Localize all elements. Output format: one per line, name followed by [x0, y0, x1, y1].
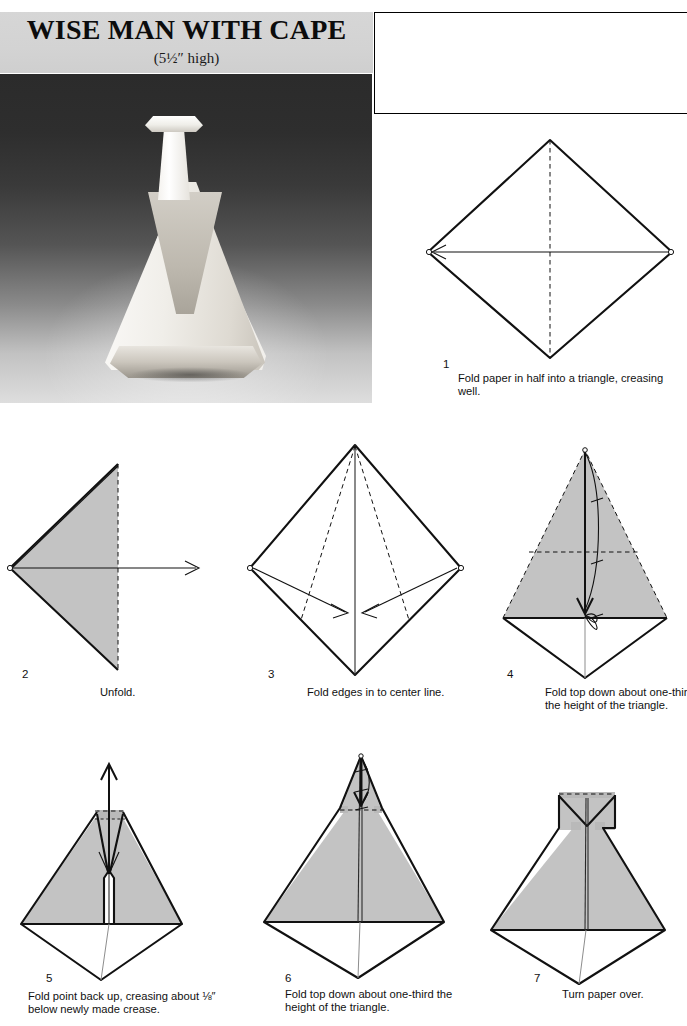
title-band: WISE MAN WITH CAPE (5½″ high) — [0, 12, 373, 73]
origami-instruction-page: WISE MAN WITH CAPE (5½″ high) MATERIALS:… — [0, 0, 687, 1026]
step-4-diagram — [485, 440, 685, 680]
step-2-diagram — [0, 442, 220, 674]
step-5-caption: Fold point back up, creasing about ⅛″ be… — [28, 990, 238, 1017]
step-5-number: 5 — [46, 972, 52, 984]
step-7-number: 7 — [534, 972, 540, 984]
materials-block: MATERIALS: Wise Man—1 sheet of 6″ × 6″ p… — [374, 12, 687, 113]
step-6-diagram — [248, 748, 458, 980]
origami-hat — [145, 116, 203, 132]
step-3-caption: Fold edges in to center line. — [307, 686, 507, 699]
step-7-caption: Turn paper over. — [562, 988, 682, 1001]
step-1-caption: Fold paper in half into a triangle, crea… — [458, 372, 668, 399]
page-subtitle: (5½″ high) — [0, 50, 373, 67]
step-3-diagram — [245, 440, 465, 680]
step-2-caption: Unfold. — [100, 686, 260, 699]
finished-model-photo — [0, 74, 372, 403]
step-2-number: 2 — [22, 668, 28, 680]
step-4-number: 4 — [507, 668, 513, 680]
step-5-diagram — [5, 752, 215, 980]
step-4-caption: Fold top down about one-third the height… — [545, 686, 687, 713]
materials-rule-bottom — [374, 113, 687, 114]
step-3-number: 3 — [268, 668, 274, 680]
photo-ground-shadow — [104, 366, 276, 388]
page-title: WISE MAN WITH CAPE — [0, 14, 373, 46]
step-1-number: 1 — [443, 358, 449, 370]
step-1-diagram — [420, 132, 680, 364]
step-6-number: 6 — [285, 972, 291, 984]
step-7-diagram — [475, 762, 685, 984]
step-6-caption: Fold top down about one-third the height… — [285, 988, 460, 1015]
